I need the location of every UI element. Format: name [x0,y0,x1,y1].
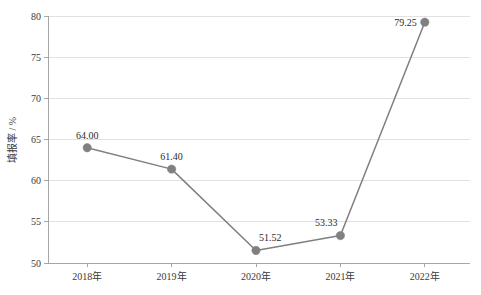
data-point-label: 79.25 [394,17,417,28]
y-tick-label: 55 [31,216,41,227]
data-point-marker [167,165,175,173]
data-point-marker [252,246,260,254]
y-axis-tick-labels: 50556065707580 [31,11,48,269]
x-tick-label: 2022年 [410,270,440,282]
data-point-label: 51.52 [259,232,282,243]
x-axis-ticks [87,263,425,267]
data-point-marker [83,144,91,152]
y-tick-label: 60 [31,175,41,186]
x-tick-label: 2018年 [72,270,102,282]
y-tick-label: 65 [31,134,41,145]
data-point-marker [336,231,344,239]
y-tick-label: 70 [31,93,41,104]
x-tick-label: 2019年 [157,270,187,282]
data-point-label: 61.40 [160,151,183,162]
x-axis-tick-labels: 2018年2019年2020年2021年2022年 [72,270,440,282]
y-axis-title: 填报率 / % [6,117,18,163]
x-tick-label: 2021年 [325,270,355,282]
line-chart: 50556065707580 2018年2019年2020年2021年2022年… [0,0,481,295]
x-tick-label: 2020年 [241,270,271,282]
data-point-label: 64.00 [76,130,99,141]
data-point-marker [421,18,429,26]
y-tick-label: 50 [31,258,41,269]
data-point-label: 53.33 [315,217,338,228]
y-tick-label: 75 [31,52,41,63]
chart-canvas: 50556065707580 2018年2019年2020年2021年2022年… [0,0,481,295]
y-tick-label: 80 [31,11,41,22]
